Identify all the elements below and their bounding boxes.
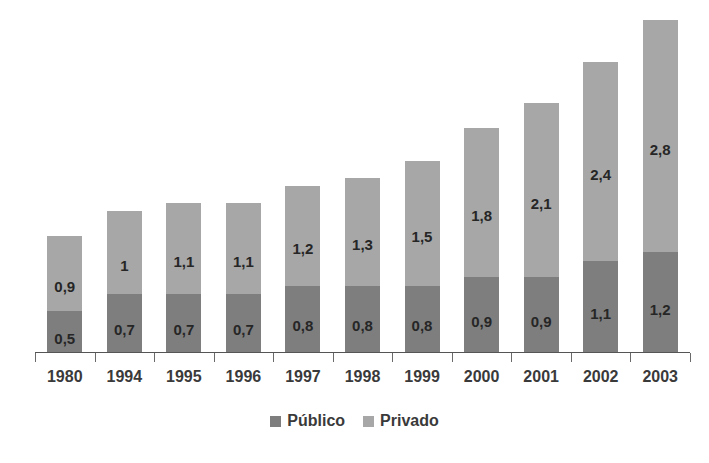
x-axis-tick (333, 353, 334, 362)
chart-legend: Público Privado (0, 412, 709, 430)
bar-value-label-privado: 1,2 (293, 241, 314, 256)
legend-item-publico[interactable]: Público (270, 412, 345, 430)
bar-value-label-publico: 0,7 (173, 322, 194, 337)
legend-label-privado: Privado (380, 412, 439, 430)
bar-group[interactable]: 2,41,1 (583, 62, 618, 353)
x-axis-tick (95, 353, 96, 362)
x-axis-category-labels: 1980199419951996199719981999200020012002… (35, 366, 690, 392)
x-axis-label-2000: 2000 (452, 366, 511, 388)
bar-segment-publico[interactable]: 0,8 (285, 286, 320, 352)
x-axis-label-1996: 1996 (214, 366, 273, 388)
x-axis-tick (273, 353, 274, 362)
bar-segment-privado[interactable]: 1,2 (285, 186, 320, 286)
bar-segment-publico[interactable]: 0,9 (524, 277, 559, 352)
legend-swatch-privado (363, 416, 374, 427)
x-axis-label-1999: 1999 (393, 366, 452, 388)
bar-segment-publico[interactable]: 0,7 (166, 294, 201, 352)
bar-value-label-publico: 0,8 (293, 318, 314, 333)
bar-value-label-publico: 0,7 (233, 322, 254, 337)
bar-group[interactable]: 1,10,7 (166, 203, 201, 352)
bar-value-label-privado: 1,5 (412, 229, 433, 244)
bar-segment-privado[interactable]: 1,1 (226, 203, 261, 294)
bar-segment-privado[interactable]: 2,8 (643, 20, 678, 252)
legend-label-publico: Público (287, 412, 345, 430)
x-axis-label-2002: 2002 (571, 366, 630, 388)
bar-value-label-privado: 1,8 (471, 208, 492, 223)
bar-segment-publico[interactable]: 0,9 (464, 277, 499, 352)
bar-group[interactable]: 1,10,7 (226, 203, 261, 352)
x-axis-label-1998: 1998 (333, 366, 392, 388)
x-axis-tick (35, 353, 36, 362)
bar-value-label-privado: 2,1 (531, 196, 552, 211)
x-axis-tick (690, 353, 691, 362)
plot-area: 0,90,510,71,10,71,10,71,20,81,30,81,50,8… (35, 20, 690, 352)
bar-value-label-publico: 0,5 (54, 331, 75, 346)
x-axis-label-1995: 1995 (154, 366, 213, 388)
bar-segment-privado[interactable]: 1,5 (405, 161, 440, 286)
bar-group[interactable]: 0,90,5 (47, 236, 82, 352)
bar-value-label-publico: 0,8 (352, 318, 373, 333)
bar-segment-privado[interactable]: 1,8 (464, 128, 499, 277)
bar-value-label-privado: 2,8 (650, 142, 671, 157)
bar-group[interactable]: 10,7 (107, 211, 142, 352)
x-axis-tick (154, 353, 155, 362)
bar-group[interactable]: 1,80,9 (464, 128, 499, 352)
bar-value-label-publico: 0,7 (114, 322, 135, 337)
bar-segment-privado[interactable]: 1,3 (345, 178, 380, 286)
stacked-bar-chart: 0,90,510,71,10,71,10,71,20,81,30,81,50,8… (0, 0, 709, 463)
x-axis-label-2001: 2001 (512, 366, 571, 388)
bar-value-label-privado: 1,1 (233, 254, 254, 269)
bar-value-label-publico: 0,9 (531, 314, 552, 329)
bar-value-label-publico: 0,8 (412, 318, 433, 333)
bar-segment-publico[interactable]: 0,5 (47, 311, 82, 353)
bar-group[interactable]: 2,10,9 (524, 103, 559, 352)
x-axis-tick (630, 353, 631, 362)
bar-group[interactable]: 1,30,8 (345, 178, 380, 352)
x-axis-label-1994: 1994 (95, 366, 154, 388)
bar-segment-privado[interactable]: 1 (107, 211, 142, 294)
x-axis-tick (214, 353, 215, 362)
bar-segment-publico[interactable]: 0,7 (107, 294, 142, 352)
bar-value-label-publico: 1,1 (590, 306, 611, 321)
bar-group[interactable]: 1,20,8 (285, 186, 320, 352)
legend-item-privado[interactable]: Privado (363, 412, 439, 430)
x-axis-label-1997: 1997 (273, 366, 332, 388)
x-axis-label-2003: 2003 (631, 366, 690, 388)
bar-group[interactable]: 2,81,2 (643, 20, 678, 352)
x-axis-tick (392, 353, 393, 362)
x-axis-line (35, 352, 690, 353)
bar-value-label-privado: 1,3 (352, 237, 373, 252)
bar-segment-privado[interactable]: 1,1 (166, 203, 201, 294)
bar-value-label-privado: 1,1 (173, 254, 194, 269)
bar-segment-publico[interactable]: 0,8 (405, 286, 440, 352)
bar-value-label-privado: 1 (120, 258, 128, 273)
x-axis-tick (452, 353, 453, 362)
bar-value-label-privado: 0,9 (54, 279, 75, 294)
x-axis-tick (511, 353, 512, 362)
x-axis-label-1980: 1980 (35, 366, 94, 388)
bar-segment-privado[interactable]: 2,1 (524, 103, 559, 277)
bar-value-label-privado: 2,4 (590, 167, 611, 182)
bar-segment-publico[interactable]: 0,7 (226, 294, 261, 352)
bar-segment-privado[interactable]: 2,4 (583, 62, 618, 261)
bar-value-label-publico: 1,2 (650, 302, 671, 317)
bar-group[interactable]: 1,50,8 (405, 161, 440, 352)
bar-segment-publico[interactable]: 1,1 (583, 261, 618, 352)
bar-value-label-publico: 0,9 (471, 314, 492, 329)
bar-segment-privado[interactable]: 0,9 (47, 236, 82, 311)
bar-segment-publico[interactable]: 1,2 (643, 252, 678, 352)
x-axis-tick (571, 353, 572, 362)
legend-swatch-publico (270, 416, 281, 427)
bar-segment-publico[interactable]: 0,8 (345, 286, 380, 352)
